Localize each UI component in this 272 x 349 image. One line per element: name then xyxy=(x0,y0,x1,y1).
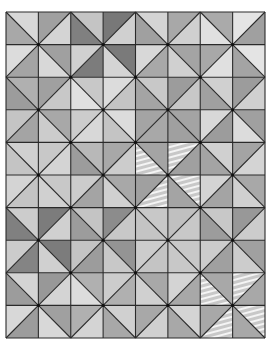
seam-node xyxy=(37,239,40,242)
seam-node xyxy=(231,173,234,176)
seam-node xyxy=(231,43,234,46)
seam-node xyxy=(69,271,72,274)
seam-node xyxy=(134,271,137,274)
quilt-image xyxy=(0,0,272,349)
seam-node xyxy=(37,304,40,307)
seam-node xyxy=(231,108,234,111)
seam-node xyxy=(102,43,105,46)
seam-node xyxy=(102,304,105,307)
seam-node xyxy=(166,173,169,176)
seam-node xyxy=(37,108,40,111)
seam-node xyxy=(199,141,202,144)
seam-node xyxy=(199,76,202,79)
seam-node xyxy=(199,271,202,274)
seam-node xyxy=(231,239,234,242)
seam-node xyxy=(69,76,72,79)
seam-node xyxy=(69,141,72,144)
seam-node xyxy=(134,76,137,79)
seam-node xyxy=(166,239,169,242)
seam-node xyxy=(134,141,137,144)
seam-node xyxy=(166,43,169,46)
seam-node xyxy=(166,304,169,307)
seam-node xyxy=(102,173,105,176)
seam-node xyxy=(37,43,40,46)
seam-node xyxy=(166,108,169,111)
seam-node xyxy=(37,173,40,176)
seam-node xyxy=(69,206,72,209)
seam-node xyxy=(199,206,202,209)
seam-node xyxy=(102,108,105,111)
seam-node xyxy=(134,206,137,209)
seam-node xyxy=(102,239,105,242)
seam-node xyxy=(231,304,234,307)
